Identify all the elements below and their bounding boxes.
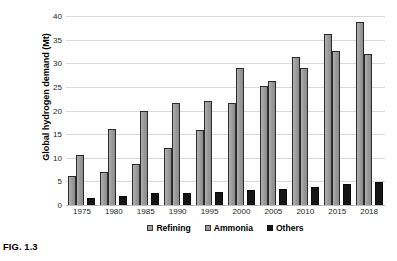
bar-group-2018 <box>353 16 385 205</box>
bar-group-1975 <box>66 16 98 205</box>
bar-ammonia-2018 <box>364 54 372 205</box>
bar-others-2018 <box>375 182 383 205</box>
bar-ammonia-2000 <box>236 68 244 205</box>
bar-ammonia-1995 <box>204 101 212 205</box>
bar-ammonia-1980 <box>108 129 116 205</box>
bar-group-1985 <box>130 16 162 205</box>
bar-others-2000 <box>247 190 255 205</box>
y-tick-label: 30 <box>40 59 62 68</box>
legend-swatch-others-icon <box>267 225 273 231</box>
bar-group-2000 <box>226 16 258 205</box>
x-tick-label-2010: 2010 <box>289 207 321 221</box>
bar-others-2005 <box>279 189 287 205</box>
bar-refining-1990 <box>164 148 172 205</box>
bar-group-2015 <box>321 16 353 205</box>
x-axis-tick-labels: 1975198019851990199520002005201020152018 <box>66 207 385 221</box>
y-tick-label: 35 <box>40 35 62 44</box>
bar-others-2010 <box>311 187 319 205</box>
bar-group-1995 <box>194 16 226 205</box>
bar-refining-2005 <box>260 86 268 205</box>
bar-refining-1985 <box>132 164 140 205</box>
x-tick-label-2018: 2018 <box>353 207 385 221</box>
y-tick-label: 25 <box>40 82 62 91</box>
x-tick-label-1975: 1975 <box>66 207 98 221</box>
y-tick-label: 0 <box>40 201 62 210</box>
figure-caption: FIG. 1.3 <box>3 241 38 252</box>
bar-others-1985 <box>151 193 159 205</box>
x-tick-label-1980: 1980 <box>98 207 130 221</box>
bar-others-1975 <box>87 198 95 205</box>
legend-item-ammonia: Ammonia <box>205 223 253 233</box>
bar-others-1980 <box>119 196 127 205</box>
chart-legend: RefiningAmmoniaOthers <box>66 223 385 233</box>
bar-group-1990 <box>162 16 194 205</box>
bar-ammonia-1990 <box>172 103 180 205</box>
legend-item-others: Others <box>267 223 304 233</box>
legend-label: Refining <box>156 223 190 233</box>
x-tick-label-2000: 2000 <box>226 207 258 221</box>
bar-refining-2000 <box>228 103 236 205</box>
bar-refining-1975 <box>68 176 76 205</box>
bar-chart: Global hydrogen demand (Mt) 051015202530… <box>0 0 397 232</box>
bar-others-1995 <box>215 192 223 205</box>
x-tick-label-1985: 1985 <box>130 207 162 221</box>
legend-swatch-refining-icon <box>147 225 153 231</box>
bar-ammonia-1975 <box>76 155 84 205</box>
legend-item-refining: Refining <box>147 223 190 233</box>
gridline-0 <box>66 205 385 206</box>
x-tick-label-1990: 1990 <box>162 207 194 221</box>
bar-ammonia-1985 <box>140 111 148 206</box>
legend-label: Ammonia <box>214 223 253 233</box>
x-tick-label-2005: 2005 <box>257 207 289 221</box>
bar-group-2010 <box>289 16 321 205</box>
bar-group-2005 <box>257 16 289 205</box>
y-tick-label: 10 <box>40 153 62 162</box>
y-tick-label: 5 <box>40 177 62 186</box>
bar-refining-1995 <box>196 130 204 205</box>
bar-ammonia-2005 <box>268 81 276 205</box>
bar-group-1980 <box>98 16 130 205</box>
legend-label: Others <box>276 223 304 233</box>
y-tick-label: 15 <box>40 130 62 139</box>
figure-1-3: Global hydrogen demand (Mt) 051015202530… <box>0 0 397 261</box>
x-tick-label-2015: 2015 <box>321 207 353 221</box>
bar-groups <box>66 16 385 205</box>
bar-ammonia-2015 <box>332 51 340 205</box>
bar-refining-1980 <box>100 172 108 205</box>
y-axis-tick-labels: 0510152025303540 <box>38 16 62 205</box>
legend-swatch-ammonia-icon <box>205 225 211 231</box>
plot-area <box>66 16 385 205</box>
bar-others-2015 <box>343 184 351 205</box>
x-tick-label-1995: 1995 <box>194 207 226 221</box>
bar-refining-2018 <box>356 22 364 205</box>
bar-ammonia-2010 <box>300 68 308 205</box>
y-tick-label: 40 <box>40 12 62 21</box>
bar-refining-2015 <box>324 34 332 205</box>
y-tick-label: 20 <box>40 106 62 115</box>
bar-others-1990 <box>183 193 191 205</box>
bar-refining-2010 <box>292 57 300 205</box>
